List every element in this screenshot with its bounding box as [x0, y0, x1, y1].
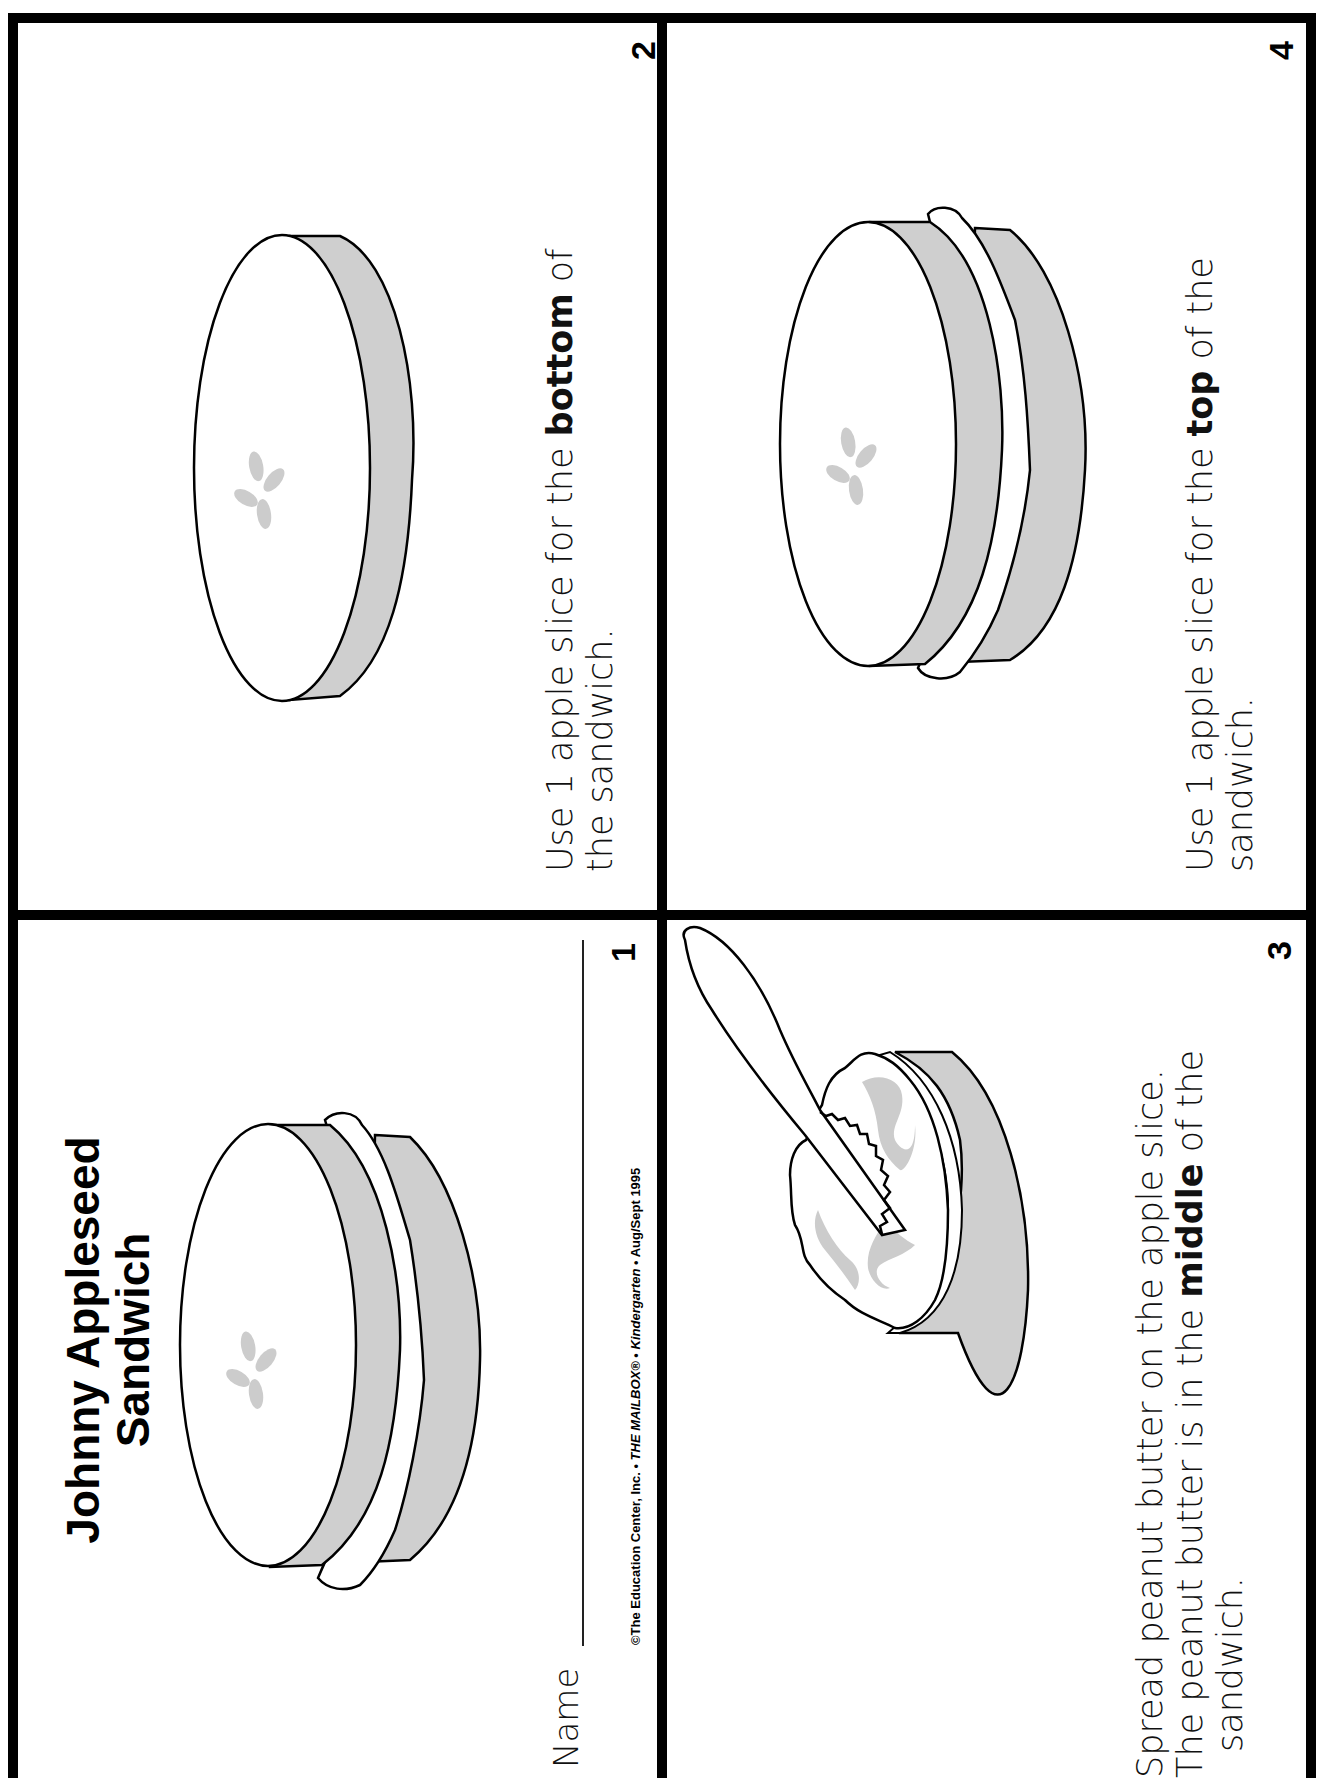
page-number-4: 4: [1264, 41, 1298, 60]
instruction-line-2: The peanut butter is in the middle of th…: [1170, 1050, 1210, 1778]
instruction-line-1: Use 1 apple slice for the bottom of: [540, 248, 580, 872]
assembled-sandwich-illustration-panel4: [780, 208, 1086, 679]
assembled-sandwich-illustration-panel1: [180, 1113, 480, 1589]
name-input-line[interactable]: [582, 940, 584, 1646]
page-number-1: 1: [606, 943, 640, 962]
copyright-notice: ©The Education Center, Inc. • THE MAILBO…: [628, 1168, 644, 1645]
instruction-line-2: sandwich.: [1220, 257, 1260, 872]
instruction-line-1: Spread peanut butter on the apple slice.: [1130, 1050, 1170, 1778]
page-number-2: 2: [626, 41, 660, 60]
instruction-line-2: the sandwich.: [580, 248, 620, 872]
instruction-line-1: Use 1 apple slice for the top of the: [1180, 257, 1220, 872]
instruction-text-4: Use 1 apple slice for the top of the san…: [1180, 257, 1260, 872]
worksheet-page: Johnny Appleseed Sandwich Name ©The Educ…: [0, 0, 1340, 1778]
name-label: Name: [548, 1668, 584, 1768]
instruction-text-3: Spread peanut butter on the apple slice.…: [1130, 1050, 1250, 1778]
instruction-line-3: sandwich.: [1210, 1050, 1250, 1778]
peanut-butter-knife-illustration: [684, 927, 1030, 1398]
title-line-2: Sandwich: [108, 1100, 158, 1580]
title-line-1: Johnny Appleseed: [58, 1100, 108, 1580]
instruction-text-2: Use 1 apple slice for the bottom of the …: [540, 248, 620, 872]
page-number-3: 3: [1262, 941, 1296, 960]
worksheet-title: Johnny Appleseed Sandwich: [58, 1100, 158, 1580]
apple-slice-illustration: [194, 235, 413, 701]
